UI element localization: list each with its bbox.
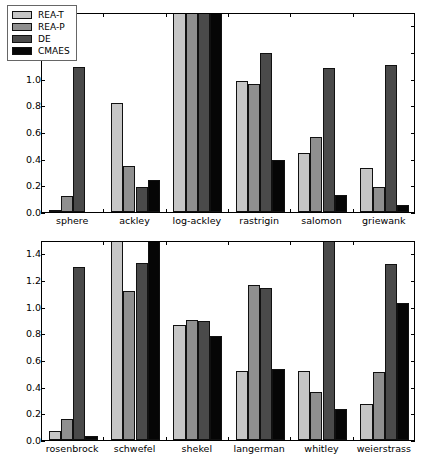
x-tick-label: shekel bbox=[182, 444, 212, 454]
legend-label-cmaes: CMAES bbox=[38, 47, 70, 56]
y-tick-mark bbox=[41, 160, 45, 161]
bar-shekel-DE bbox=[198, 321, 210, 440]
y-tick-mark bbox=[41, 308, 45, 309]
y-tick-mark bbox=[411, 308, 415, 309]
x-tick-label: rastrigin bbox=[239, 216, 279, 226]
bar-schwefel-REA-P bbox=[123, 291, 135, 440]
x-tick-mark bbox=[290, 209, 291, 213]
y-tick-mark bbox=[41, 133, 45, 134]
bar-rastrigin-DE bbox=[260, 53, 272, 212]
y-tick-label: 0.2 bbox=[26, 410, 41, 420]
legend-swatch-rea-t bbox=[12, 11, 32, 19]
y-tick-mark bbox=[41, 441, 45, 442]
y-tick-mark bbox=[411, 53, 415, 54]
x-tick-mark bbox=[166, 241, 167, 245]
x-tick-label: weierstrass bbox=[357, 444, 411, 454]
x-tick-mark bbox=[103, 241, 104, 245]
legend-swatch-rea-p bbox=[12, 23, 32, 31]
y-tick-mark bbox=[411, 388, 415, 389]
bar-langerman-CMAES bbox=[272, 369, 284, 440]
y-tick-label: 0.0 bbox=[26, 436, 41, 446]
x-tick-mark bbox=[353, 209, 354, 213]
y-tick-mark bbox=[411, 186, 415, 187]
legend-label-rea-t: REA-T bbox=[38, 11, 64, 20]
legend-item-rea-p: REA-P bbox=[12, 21, 70, 33]
x-tick-label: langerman bbox=[234, 444, 285, 454]
bar-griewank-CMAES bbox=[397, 205, 409, 212]
y-tick-mark bbox=[411, 281, 415, 282]
y-tick-mark bbox=[411, 213, 415, 214]
y-tick-mark bbox=[411, 133, 415, 134]
y-tick-label: 1.0 bbox=[26, 303, 41, 313]
bar-whitley-DE bbox=[323, 241, 335, 440]
x-tick-label: whitley bbox=[304, 444, 338, 454]
y-tick-label: 1.4 bbox=[26, 250, 41, 260]
x-tick-mark bbox=[290, 437, 291, 441]
bar-rosenbrock-REA-P bbox=[61, 419, 73, 440]
y-tick-mark bbox=[41, 414, 45, 415]
bar-salomon-DE bbox=[323, 68, 335, 212]
plot-area-bottom bbox=[41, 241, 415, 441]
x-tick-mark bbox=[353, 13, 354, 17]
y-tick-label: 0.6 bbox=[26, 356, 41, 366]
bar-rastrigin-REA-T bbox=[236, 81, 248, 212]
y-tick-mark bbox=[41, 186, 45, 187]
x-tick-mark bbox=[166, 437, 167, 441]
bar-sphere-REA-P bbox=[61, 196, 73, 212]
y-tick-mark bbox=[411, 334, 415, 335]
x-tick-label: log-ackley bbox=[173, 216, 222, 226]
y-tick-mark bbox=[41, 213, 45, 214]
x-tick-mark bbox=[353, 437, 354, 441]
y-tick-mark bbox=[411, 254, 415, 255]
y-tick-label: 0.4 bbox=[26, 155, 41, 165]
y-tick-label: 0.8 bbox=[26, 330, 41, 340]
bar-rastrigin-CMAES bbox=[272, 160, 284, 212]
legend-item-de: DE bbox=[12, 33, 70, 45]
bar-weierstrass-REA-T bbox=[360, 404, 372, 440]
bar-rosenbrock-CMAES bbox=[85, 436, 97, 440]
bar-schwefel-REA-T bbox=[111, 241, 123, 440]
y-tick-mark bbox=[41, 254, 45, 255]
y-tick-label: 1.0 bbox=[26, 75, 41, 85]
bar-griewank-DE bbox=[385, 65, 397, 212]
x-tick-label: salomon bbox=[301, 216, 341, 226]
y-tick-label: 0.0 bbox=[26, 208, 41, 218]
x-tick-mark bbox=[166, 13, 167, 17]
y-tick-mark bbox=[411, 160, 415, 161]
y-tick-mark bbox=[411, 26, 415, 27]
y-tick-mark bbox=[411, 441, 415, 442]
y-tick-label: 0.4 bbox=[26, 383, 41, 393]
bar-shekel-CMAES bbox=[210, 336, 222, 440]
bar-weierstrass-REA-P bbox=[373, 372, 385, 440]
y-tick-mark bbox=[411, 361, 415, 362]
y-tick-label: 0.8 bbox=[26, 102, 41, 112]
x-tick-mark bbox=[103, 437, 104, 441]
bar-chart-figure: 0.00.20.40.60.81.01.21.4 sphereackleylog… bbox=[0, 0, 423, 464]
y-tick-mark bbox=[411, 80, 415, 81]
bar-rosenbrock-DE bbox=[73, 267, 85, 440]
bar-langerman-REA-T bbox=[236, 371, 248, 440]
bar-shekel-REA-T bbox=[173, 325, 185, 440]
bar-log-ackley-REA-P bbox=[186, 13, 198, 212]
x-tick-mark bbox=[228, 13, 229, 17]
x-tick-label: sphere bbox=[56, 216, 88, 226]
legend-swatch-de bbox=[12, 35, 32, 43]
y-tick-mark bbox=[41, 388, 45, 389]
y-tick-mark bbox=[41, 334, 45, 335]
bar-log-ackley-DE bbox=[198, 13, 210, 212]
bar-whitley-CMAES bbox=[335, 409, 347, 440]
legend: REA-T REA-P DE CMAES bbox=[7, 5, 77, 61]
legend-swatch-cmaes bbox=[12, 47, 32, 55]
y-tick-mark bbox=[41, 80, 45, 81]
y-tick-mark bbox=[411, 414, 415, 415]
y-tick-label: 0.6 bbox=[26, 128, 41, 138]
y-tick-mark bbox=[41, 361, 45, 362]
bar-rastrigin-REA-P bbox=[248, 84, 260, 212]
x-tick-mark bbox=[290, 241, 291, 245]
x-tick-mark bbox=[103, 13, 104, 17]
plot-area-top bbox=[41, 13, 415, 213]
bar-log-ackley-REA-T bbox=[173, 13, 185, 212]
bar-weierstrass-CMAES bbox=[397, 303, 409, 440]
legend-item-rea-t: REA-T bbox=[12, 9, 70, 21]
bar-griewank-REA-P bbox=[373, 187, 385, 212]
